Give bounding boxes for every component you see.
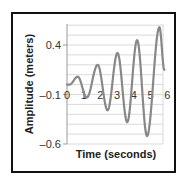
amplitude-series-line xyxy=(67,27,164,136)
y-tick-label: 0.4 xyxy=(46,39,61,51)
y-tick-label: –0.6 xyxy=(40,138,61,150)
y-tick-label: –0.1 xyxy=(40,89,61,101)
y-axis-label: Amplitude (meters) xyxy=(23,34,35,134)
x-tick-label: 6 xyxy=(164,89,170,101)
x-tick-label: 3 xyxy=(114,89,120,101)
x-axis-label: Time (seconds) xyxy=(76,148,157,160)
x-tick-label: 0 xyxy=(64,89,70,101)
